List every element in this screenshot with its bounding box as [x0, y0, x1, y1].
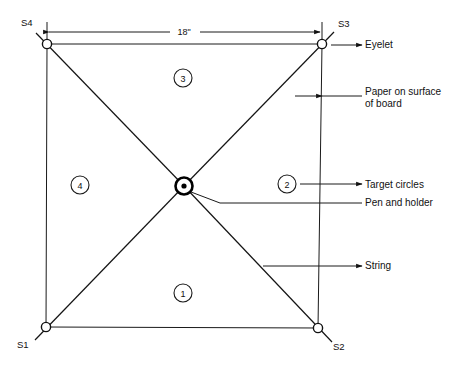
eyelet-s3-icon — [317, 39, 326, 48]
corner-label-s3: S3 — [338, 18, 350, 29]
pen-tip-dot-icon — [181, 183, 186, 188]
corner-label-s2: S2 — [333, 341, 345, 352]
callout-leaders-group — [191, 45, 362, 266]
string-s1-to-center — [35, 186, 184, 340]
zone-label-1: 1 — [180, 289, 185, 299]
eyelet-s2-icon — [313, 323, 322, 332]
callout-label-paper-line1: Paper on surface — [365, 86, 442, 97]
string-pen-target-board-diagram: 18" S4 S3 — [0, 0, 466, 369]
corner-label-s1: S1 — [17, 339, 29, 350]
callout-label-pen-and-holder: Pen and holder — [365, 197, 434, 208]
zone-marker-4: 4 — [71, 176, 89, 194]
paper-edge-bottom — [46, 327, 318, 328]
callout-label-string: String — [365, 260, 391, 271]
callout-labels-group: Eyelet Paper on surface of board Target … — [365, 39, 442, 271]
dimension-18-inch: 18" — [47, 22, 322, 42]
corner-label-s4: S4 — [21, 17, 33, 28]
string-s3-to-center — [184, 32, 334, 186]
callout-label-eyelet: Eyelet — [365, 39, 393, 50]
string-s2-to-center — [184, 186, 332, 342]
eyelet-s4-icon — [42, 39, 51, 48]
zone-label-2: 2 — [284, 180, 289, 190]
pen-and-holder-marker — [176, 178, 193, 195]
leader-pen-and-holder — [191, 192, 362, 203]
paper-edge-right — [318, 44, 322, 328]
string-s4-to-center — [36, 33, 184, 186]
diagram-canvas: 18" S4 S3 — [0, 0, 466, 369]
zone-marker-2: 2 — [278, 175, 296, 193]
zone-label-3: 3 — [180, 74, 185, 84]
callout-label-target-circles: Target circles — [365, 179, 424, 190]
dimension-label: 18" — [177, 27, 190, 37]
paper-edge-left — [46, 44, 47, 327]
zone-marker-1: 1 — [174, 284, 192, 302]
zone-label-4: 4 — [77, 181, 82, 191]
callout-label-paper-line2: of board — [365, 98, 402, 109]
zone-marker-3: 3 — [174, 69, 192, 87]
eyelet-s1-icon — [41, 322, 50, 331]
